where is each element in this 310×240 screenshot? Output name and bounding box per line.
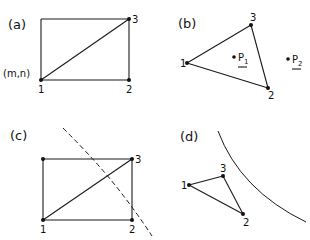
panel-d-node-2-label: 2 bbox=[243, 217, 249, 228]
panel-a: (a) (m,n) 1 2 3 bbox=[3, 14, 138, 95]
panel-c-node-3-label: 3 bbox=[135, 154, 141, 165]
panel-a-edge-1-3 bbox=[41, 19, 129, 80]
panel-d-node-3-label: 3 bbox=[220, 163, 226, 174]
panel-a-node-3-label: 3 bbox=[132, 14, 138, 25]
panel-a-node-1 bbox=[39, 78, 43, 82]
panel-d-edge-1-3 bbox=[189, 176, 223, 185]
panel-b-point-p1-label: P1 bbox=[238, 52, 249, 66]
panel-a-label: (a) bbox=[8, 17, 26, 32]
panel-d-node-2 bbox=[241, 212, 245, 216]
panel-c-node-2-label: 2 bbox=[129, 224, 135, 235]
panel-b-node-3-label: 3 bbox=[250, 12, 256, 23]
panel-d-node-1-label: 1 bbox=[181, 180, 187, 191]
panel-b-node-2-label: 2 bbox=[268, 90, 274, 101]
panel-b-point-p1 bbox=[232, 55, 236, 59]
panel-b-node-3 bbox=[249, 23, 253, 27]
panel-d-label: (d) bbox=[180, 129, 198, 144]
panel-c-node-1-label: 1 bbox=[40, 224, 46, 235]
panel-b-edge-2-3 bbox=[251, 25, 268, 88]
panel-d: (d) 1 2 3 bbox=[180, 129, 306, 228]
panel-a-node-3 bbox=[127, 17, 131, 21]
panel-b-label: (b) bbox=[178, 16, 196, 31]
panel-c-node-1 bbox=[41, 218, 45, 222]
panel-b-edge-1-2 bbox=[187, 63, 268, 88]
panel-c-label: (c) bbox=[10, 128, 27, 143]
panel-c-node-3 bbox=[130, 157, 134, 161]
panel-b-point-p2-label: P2 bbox=[292, 54, 303, 68]
panel-d-node-1 bbox=[187, 183, 191, 187]
panel-b-node-1-label: 1 bbox=[180, 58, 186, 69]
panel-a-node-2-label: 2 bbox=[126, 84, 132, 95]
panel-d-node-3 bbox=[221, 174, 225, 178]
panel-a-node-1-label: 1 bbox=[38, 84, 44, 95]
panel-c: (c) 1 2 3 bbox=[10, 128, 152, 236]
panel-a-node-2 bbox=[127, 78, 131, 82]
panel-a-corner-label: (m,n) bbox=[3, 68, 30, 79]
panel-b-point-p2 bbox=[286, 57, 290, 61]
panel-d-solid-boundary bbox=[218, 131, 306, 222]
panel-b: (b) 1 2 3 P1 P2 bbox=[178, 12, 303, 101]
figure-canvas: (a) (m,n) 1 2 3 (b) 1 2 3 P1 P2 (c) bbox=[0, 0, 310, 240]
panel-c-node-2 bbox=[130, 218, 134, 222]
panel-c-corner-node bbox=[41, 157, 45, 161]
